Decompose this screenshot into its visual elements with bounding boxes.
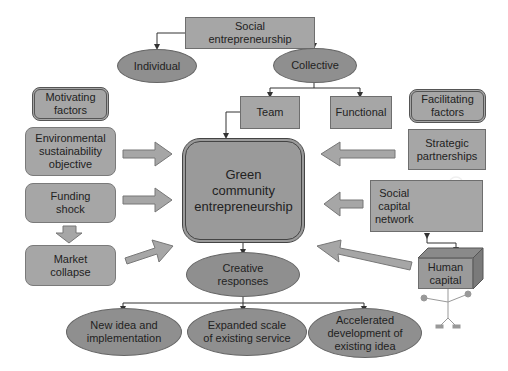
center-label: Green community entrepreneurship: [194, 167, 292, 215]
individual-label: Individual: [134, 60, 180, 73]
social-entrepreneurship-label: Social entrepreneurship: [208, 20, 291, 46]
functional-label: Functional: [336, 106, 387, 119]
functional-box: Functional: [330, 96, 392, 129]
green-community-entrepreneurship-box: Green community entrepreneurship: [182, 138, 305, 243]
outcome-accelerated-label: Accelerated development of existing idea: [327, 314, 402, 353]
funding-shock-label: Funding shock: [51, 190, 91, 216]
outcome-new-idea: New idea and implementation: [66, 308, 182, 356]
individual-ellipse: Individual: [117, 49, 197, 83]
facilitating-factors-label: Facilitating factors: [421, 93, 474, 119]
strategic-partnerships-label: Strategic partnerships: [417, 137, 478, 163]
motivating-item-environmental: Environmental sustainability objective: [25, 127, 116, 176]
motivating-factors-label: Motivating factors: [45, 91, 95, 117]
collective-ellipse: Collective: [273, 48, 357, 83]
social-capital-label: Social capital network: [375, 187, 414, 226]
collective-label: Collective: [291, 59, 339, 72]
creative-responses-label: Creative responses: [218, 262, 269, 288]
person-figure-icon: [421, 289, 471, 328]
outcome-accelerated-development: Accelerated development of existing idea: [308, 308, 422, 358]
outcome-expanded-scale: Expanded scale of existing service: [187, 308, 307, 356]
creative-responses-ellipse: Creative responses: [186, 252, 300, 297]
market-collapse-label: Market collapse: [50, 253, 90, 279]
outcome-new-idea-label: New idea and implementation: [87, 319, 162, 345]
human-capital-box: Human capital: [418, 258, 473, 289]
motivating-factors-header: Motivating factors: [32, 87, 109, 121]
social-capital-network-box: Social capital network: [370, 180, 483, 232]
motivating-item-market-collapse: Market collapse: [25, 245, 116, 286]
environmental-label: Environmental sustainability objective: [35, 132, 105, 171]
social-entrepreneurship-box: Social entrepreneurship: [185, 17, 315, 49]
outcome-expanded-scale-label: Expanded scale of existing service: [203, 319, 290, 345]
team-label: Team: [257, 106, 284, 119]
motivating-item-funding-shock: Funding shock: [25, 183, 116, 223]
facilitating-factors-header: Facilitating factors: [409, 89, 486, 123]
human-capital-label: Human capital: [428, 261, 463, 287]
team-box: Team: [240, 96, 300, 129]
strategic-partnerships-box: Strategic partnerships: [408, 129, 486, 170]
